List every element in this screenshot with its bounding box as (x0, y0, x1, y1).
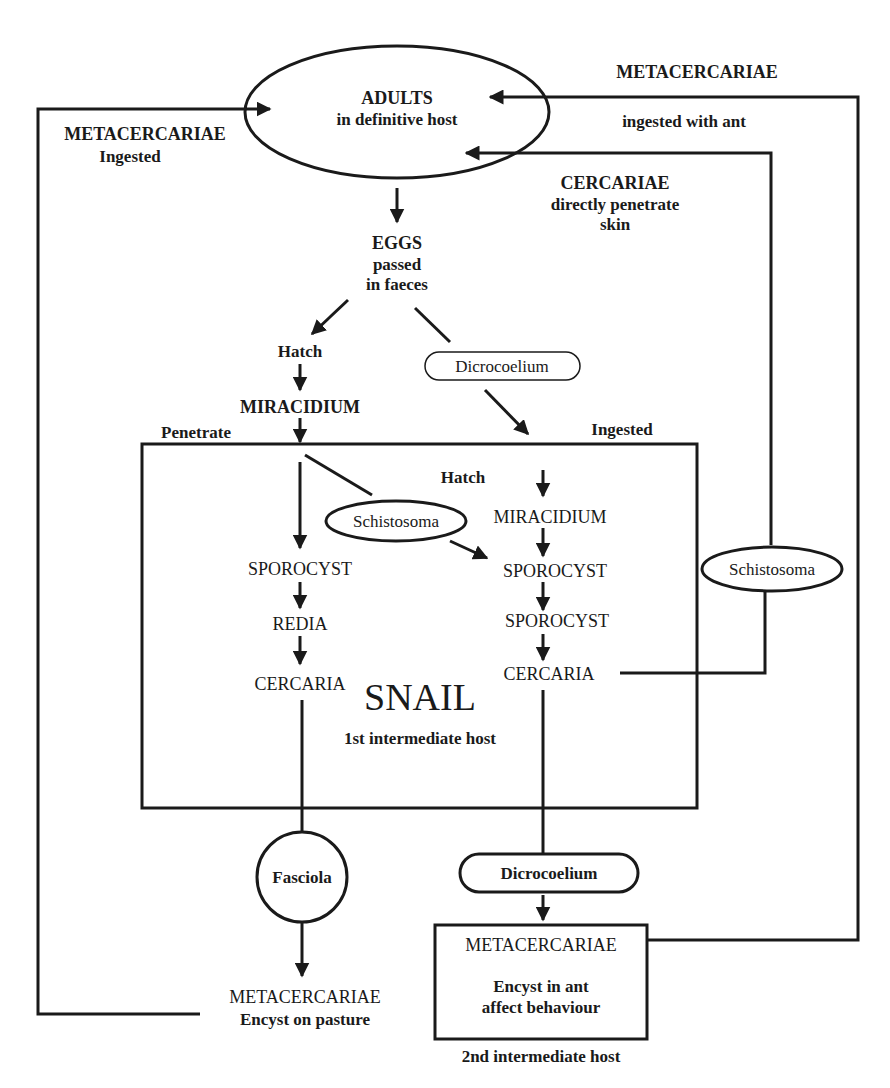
edge-label-cercariae: CERCARIAE (560, 173, 669, 193)
schistosoma-outer-label: Schistosoma (729, 560, 815, 579)
miracidium-left-label: MIRACIDIUM (240, 397, 360, 417)
metacercariae-pasture-sub: Encyst on pasture (240, 1010, 370, 1029)
hatch-left-label: Hatch (278, 342, 323, 361)
second-host-label: 2nd intermediate host (462, 1047, 621, 1066)
sporocyst-right-2-label: SPOROCYST (505, 611, 609, 631)
edge-label-ingested-with-ant: ingested with ant (622, 112, 746, 131)
adults-label: ADULTS (361, 88, 432, 108)
edge-label-metacercariae-ant: METACERCARIAE (616, 62, 778, 82)
sporocyst-left-label: SPOROCYST (248, 559, 352, 579)
snail-box: SNAIL 1st intermediate host (142, 444, 697, 808)
dicrocoelium-top-node: Dicrocoelium (425, 352, 580, 380)
snail-label: SNAIL (364, 676, 476, 718)
redia-label: REDIA (273, 614, 328, 634)
dicrocoelium-bottom-node: Dicrocoelium (460, 854, 638, 892)
snail-sub: 1st intermediate host (344, 729, 496, 748)
dicrocoelium-bottom-label: Dicrocoelium (501, 864, 598, 883)
fasciola-node: Fasciola (257, 832, 347, 922)
adults-node: ADULTS in definitive host (245, 46, 549, 178)
sporocyst-right-1-label: SPOROCYST (503, 561, 607, 581)
cercaria-right-label: CERCARIA (503, 664, 594, 684)
schistosoma-outer-node: Schistosoma (702, 547, 842, 591)
metacercariae-ant-box: METACERCARIAE Encyst in ant affect behav… (435, 925, 647, 1039)
metacercariae-pasture-label: METACERCARIAE (229, 987, 381, 1007)
life-cycle-diagram: ADULTS in definitive host METACERCARIAE … (0, 0, 890, 1088)
edge-pasture-to-adults (38, 109, 270, 1014)
schistosoma-inner-node: Schistosoma (326, 501, 466, 541)
edge-label-directly-penetrate: directly penetrate (551, 195, 680, 214)
miracidium-right-label: MIRACIDIUM (493, 507, 606, 527)
eggs-label: EGGS (372, 233, 422, 253)
eggs-node: EGGS passed in faeces (366, 233, 428, 294)
metacercariae-ant-label: METACERCARIAE (465, 935, 617, 955)
metacercariae-pasture-node: METACERCARIAE Encyst on pasture (229, 987, 381, 1029)
adults-sub: in definitive host (337, 110, 458, 129)
ingested-snail-label: Ingested (591, 420, 653, 439)
edge-label-metacercariae: METACERCARIAE (64, 124, 226, 144)
edge-label-ingested: Ingested (99, 147, 161, 166)
schistosoma-inner-label: Schistosoma (353, 512, 439, 531)
metacercariae-ant-sub1: Encyst in ant (493, 977, 589, 996)
penetrate-label: Penetrate (161, 423, 231, 442)
dicrocoelium-top-label: Dicrocoelium (455, 357, 548, 376)
edge-label-skin: skin (600, 215, 631, 234)
metacercariae-ant-sub2: affect behaviour (482, 998, 601, 1017)
cercaria-left-label: CERCARIA (254, 674, 345, 694)
eggs-sub2: in faeces (366, 275, 428, 294)
fasciola-label: Fasciola (272, 868, 332, 887)
hatch-right-label: Hatch (441, 468, 486, 487)
eggs-sub1: passed (373, 255, 422, 274)
